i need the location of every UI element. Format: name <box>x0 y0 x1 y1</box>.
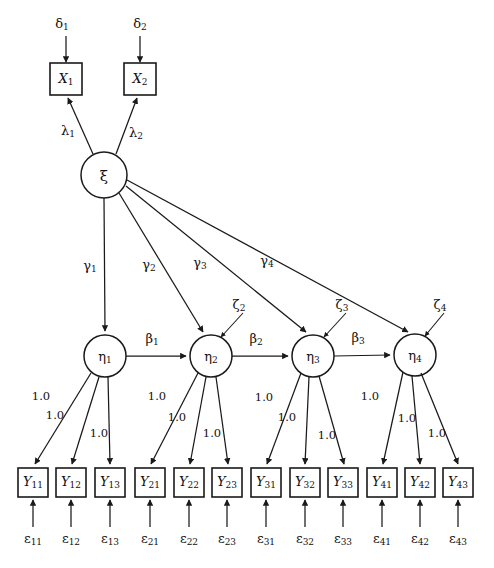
label-epsilon-43: ε43 <box>449 532 467 547</box>
label-beta-2: β2 <box>249 332 262 347</box>
label-y-33: Y33 <box>333 475 353 490</box>
label-loading-11: 1.0 <box>398 413 416 425</box>
label-epsilon-32: ε32 <box>296 532 314 547</box>
label-x-1: X1 <box>59 72 74 87</box>
label-loading-6: 1.0 <box>203 428 221 440</box>
label-loading-9: 1.0 <box>318 430 336 442</box>
label-epsilon-41: ε41 <box>373 532 391 547</box>
label-eta-1: η1 <box>98 350 112 365</box>
arrow-xi-to-eta1 <box>104 198 105 331</box>
label-zeta-3: ζ3 <box>336 298 349 313</box>
arrow-eta1-to-y12 <box>72 377 99 464</box>
label-epsilon-42: ε42 <box>411 532 429 547</box>
label-loading-3: 1.0 <box>90 428 108 440</box>
label-gamma-1: γ1 <box>83 259 97 274</box>
label-eta-3: η3 <box>306 350 320 365</box>
label-zeta-2: ζ2 <box>233 298 246 313</box>
label-epsilon-11: ε11 <box>24 532 42 547</box>
label-y-42: Y42 <box>410 475 430 490</box>
label-epsilon-12: ε12 <box>62 532 80 547</box>
label-loading-2: 1.0 <box>46 410 64 422</box>
label-y-13: Y13 <box>100 475 120 490</box>
arrow-eta3-to-y33 <box>319 376 344 464</box>
label-epsilon-31: ε31 <box>257 532 275 547</box>
label-epsilon-33: ε33 <box>334 532 352 547</box>
label-loading-7: 1.0 <box>255 392 273 404</box>
label-beta-1: β1 <box>145 332 158 347</box>
label-loading-4: 1.0 <box>148 391 166 403</box>
label-x-2: X2 <box>133 72 148 87</box>
label-loading-12: 1.0 <box>428 428 446 440</box>
label-loading-8: 1.0 <box>278 412 296 424</box>
label-lambda-1: λ1 <box>61 124 75 139</box>
label-loading-5: 1.0 <box>168 412 186 424</box>
label-eta-2: η2 <box>204 350 218 365</box>
label-y-11: Y11 <box>23 475 43 490</box>
label-y-22: Y22 <box>179 475 199 490</box>
label-loading-10: 1.0 <box>361 391 379 403</box>
label-gamma-3: γ3 <box>193 256 207 271</box>
label-epsilon-21: ε21 <box>141 532 159 547</box>
label-epsilon-13: ε13 <box>101 532 119 547</box>
label-y-31: Y31 <box>256 475 276 490</box>
label-epsilon-22: ε22 <box>180 532 198 547</box>
label-delta-2: δ2 <box>133 17 147 32</box>
label-y-43: Y43 <box>448 475 468 490</box>
label-y-41: Y41 <box>372 475 392 490</box>
arrow-eta3-to-y32 <box>305 377 309 464</box>
arrow-zeta3-to-eta3 <box>324 313 346 337</box>
arrow-eta2-to-y23 <box>216 377 228 464</box>
label-xi: ξ <box>100 169 108 184</box>
label-y-21: Y21 <box>140 475 160 490</box>
arrow-zeta2-to-eta2 <box>221 313 243 337</box>
label-y-12: Y12 <box>61 475 81 490</box>
label-lambda-2: λ2 <box>129 126 143 141</box>
label-epsilon-23: ε23 <box>218 532 236 547</box>
label-eta-4: η4 <box>408 349 422 364</box>
label-gamma-4: γ4 <box>260 254 274 269</box>
arrow-zeta4-to-eta4 <box>425 313 444 336</box>
label-zeta-4: ζ4 <box>434 298 447 313</box>
label-delta-1: δ1 <box>55 17 69 32</box>
label-y-32: Y32 <box>295 475 315 490</box>
arrow-eta2-to-y22 <box>190 377 206 464</box>
sem-path-diagram: δ1 δ2 X1 X2 λ1 λ2 ξ γ1 γ2 γ3 γ4 ζ2 ζ3 ζ4 <box>0 0 494 568</box>
arrow-eta1-to-y13 <box>108 377 110 464</box>
label-y-23: Y23 <box>217 475 237 490</box>
label-loading-1: 1.0 <box>32 391 50 403</box>
arrow-eta3-to-eta4 <box>334 355 390 356</box>
label-beta-3: β3 <box>351 331 364 346</box>
arrow-eta4-to-y43 <box>421 373 458 464</box>
label-gamma-2: γ2 <box>142 258 156 273</box>
